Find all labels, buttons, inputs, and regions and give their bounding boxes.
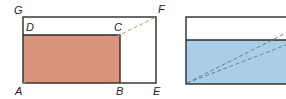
right-figure — [186, 17, 286, 84]
label-f: F — [158, 3, 166, 15]
label-b: B — [116, 85, 123, 97]
label-d: D — [26, 21, 34, 33]
label-c: C — [114, 21, 122, 33]
left-figure: G D C F A B E — [14, 3, 166, 97]
label-a: A — [14, 85, 22, 97]
label-g: G — [14, 4, 23, 16]
label-e: E — [153, 85, 161, 97]
geometry-diagram: G D C F A B E — [0, 0, 286, 99]
